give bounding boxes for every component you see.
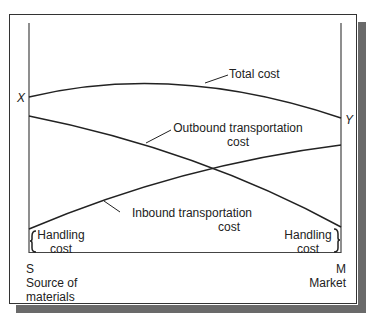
source-code: S: [26, 262, 77, 276]
inbound-label-line2: cost: [110, 220, 252, 234]
outbound-label-line2: cost: [173, 135, 303, 149]
outbound-label-line1: Outbound transportation: [173, 121, 303, 135]
handling-left-line2: cost: [36, 242, 86, 256]
market-label: M Market: [290, 262, 346, 290]
handling-cost-right: Handling cost: [283, 228, 333, 256]
outbound-label: Outbound transportation cost: [173, 121, 303, 149]
source-name-line2: materials: [26, 290, 77, 304]
handling-right-line1: Handling: [283, 228, 333, 242]
handling-left-line1: Handling: [36, 228, 86, 242]
source-name-line1: Source of: [26, 276, 77, 290]
total-cost-leader: [205, 75, 228, 83]
total-cost-label: Total cost: [229, 67, 280, 81]
handling-right-line2: cost: [283, 242, 333, 256]
handling-brace-right: [334, 229, 340, 252]
point-x-label: X: [17, 91, 25, 105]
inbound-label: Inbound transportation cost: [110, 206, 252, 234]
source-label: S Source of materials: [26, 262, 77, 304]
total-cost-curve: [29, 84, 341, 118]
point-y-label: Y: [345, 113, 353, 127]
outbound-leader: [146, 130, 171, 143]
market-code: M: [290, 262, 346, 276]
inbound-label-line1: Inbound transportation: [110, 206, 252, 220]
handling-cost-left: Handling cost: [36, 228, 86, 256]
market-name: Market: [290, 276, 346, 290]
